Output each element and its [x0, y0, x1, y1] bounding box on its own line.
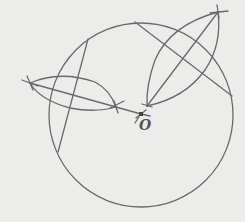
left-arc-upper — [30, 76, 116, 107]
cross-mark-right-a — [210, 11, 228, 13]
center-point — [139, 112, 143, 116]
center-label: O — [139, 117, 151, 133]
construction-svg — [0, 0, 245, 222]
diagram-canvas: O — [0, 0, 245, 222]
